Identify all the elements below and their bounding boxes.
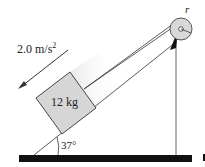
pulley-radius-label: r: [185, 3, 189, 15]
arrow-head-icon: [18, 81, 27, 89]
mass-label: 12 kg: [51, 95, 78, 110]
acceleration-value: 2.0 m/s: [17, 42, 52, 56]
angle-label: 37°: [61, 139, 76, 151]
angle-arc: [57, 137, 59, 155]
acceleration-exponent: 2: [52, 41, 56, 50]
ground-marker: [203, 154, 205, 161]
ground: [19, 155, 192, 162]
acceleration-label: 2.0 m/s2: [17, 41, 56, 57]
incline-pulley-diagram: [0, 0, 205, 167]
